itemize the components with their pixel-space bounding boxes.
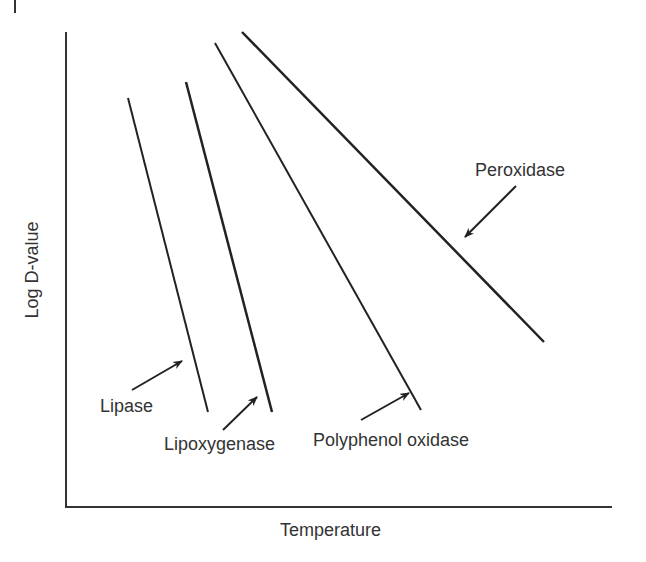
y-axis-label: Log D-value [22, 221, 43, 318]
arrow-polyphenol-oxidase [361, 393, 409, 420]
series-label-peroxidase: Peroxidase [475, 160, 565, 181]
chart-canvas [0, 0, 646, 562]
x-axis-label: Temperature [280, 520, 381, 541]
series-line-lipase [128, 98, 208, 412]
series-line-peroxidase [242, 32, 544, 342]
arrow-lipase [132, 361, 182, 390]
series-label-polyphenol-oxidase: Polyphenol oxidase [313, 430, 469, 451]
arrow-peroxidase [465, 186, 516, 237]
arrow-lipoxygenase [223, 397, 257, 430]
series-label-lipase: Lipase [100, 396, 153, 417]
series-line-polyphenol-oxidase [215, 43, 421, 410]
series-label-lipoxygenase: Lipoxygenase [164, 434, 275, 455]
series-line-lipoxygenase [186, 82, 272, 412]
